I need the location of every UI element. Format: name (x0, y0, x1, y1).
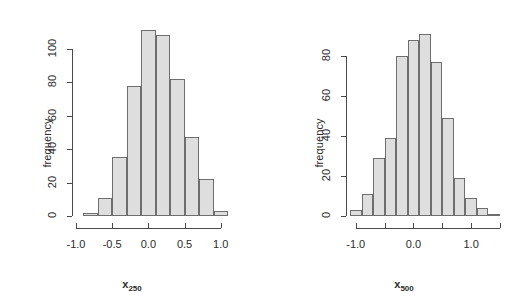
histogram-panel-x500: frequency 020406080 -1.00.01.0 x500 (264, 0, 528, 304)
histogram-bar (350, 210, 362, 216)
y-axis-tick (67, 49, 72, 50)
x-axis-tick-label: 1.0 (201, 238, 241, 250)
x-axis-tick (442, 223, 443, 228)
x-axis-tick (471, 223, 472, 228)
x-axis-line (76, 228, 221, 229)
x-axis-tick-label: 1.0 (451, 238, 491, 250)
plot-area-left (0, 0, 264, 304)
histogram-panel-x250: frequency 020406080100 -1.0-0.50.00.51.0… (0, 0, 264, 304)
x-axis-label-subscript: 500 (400, 284, 413, 293)
x-axis-tick (148, 223, 149, 228)
x-axis-tick (500, 223, 501, 228)
histogram-bar (141, 30, 155, 216)
histogram-bar (408, 40, 420, 216)
histogram-bar (385, 138, 397, 216)
x-axis-tick-label: -1.0 (56, 238, 96, 250)
y-axis-tick (67, 149, 72, 150)
y-axis-tick (341, 96, 346, 97)
histogram-bar (98, 198, 112, 216)
x-axis-tick-label: -1.0 (336, 238, 376, 250)
x-axis-tick (76, 223, 77, 228)
histogram-bar (442, 118, 454, 216)
y-axis-tick (341, 136, 346, 137)
y-axis-line (346, 56, 347, 216)
x-axis-line (356, 228, 500, 229)
x-axis-tick-label: 0.0 (128, 238, 168, 250)
y-axis-tick (67, 183, 72, 184)
plot-area-right (264, 0, 528, 304)
y-axis-tick (341, 176, 346, 177)
x-axis-tick (185, 223, 186, 228)
histogram-bar (431, 62, 443, 216)
histogram-bar (477, 208, 489, 216)
histogram-bar (214, 211, 228, 216)
x-axis-label-subscript: 250 (128, 284, 141, 293)
histogram-bar (170, 79, 184, 216)
histogram-bar (454, 178, 466, 216)
histogram-bar (488, 214, 500, 216)
histogram-bar (419, 34, 431, 216)
histogram-bar (396, 56, 408, 216)
y-axis-tick (67, 216, 72, 217)
histogram-bar (127, 86, 141, 216)
x-axis-tick-label: -0.5 (92, 238, 132, 250)
histogram-bar (465, 198, 477, 216)
x-axis-tick-label: 0.5 (165, 238, 205, 250)
histogram-bar (185, 137, 199, 216)
y-axis-tick (341, 216, 346, 217)
x-axis-tick (112, 223, 113, 228)
x-axis-tick (413, 223, 414, 228)
histogram-bar (362, 194, 374, 216)
histogram-figure: frequency 020406080100 -1.0-0.50.00.51.0… (0, 0, 528, 304)
histogram-bar (83, 213, 97, 216)
x-axis-label-right: x500 (354, 278, 454, 293)
y-axis-tick (341, 56, 346, 57)
y-axis-line (72, 49, 73, 216)
histogram-bar (373, 158, 385, 216)
x-axis-tick (356, 223, 357, 228)
x-axis-tick-label: 0.0 (393, 238, 433, 250)
y-axis-tick (67, 116, 72, 117)
x-axis-label-left: x250 (82, 278, 182, 293)
x-axis-tick (221, 223, 222, 228)
histogram-bar (112, 157, 126, 216)
y-axis-tick (67, 82, 72, 83)
histogram-bar (156, 35, 170, 216)
histogram-bar (199, 179, 213, 216)
x-axis-tick (385, 223, 386, 228)
